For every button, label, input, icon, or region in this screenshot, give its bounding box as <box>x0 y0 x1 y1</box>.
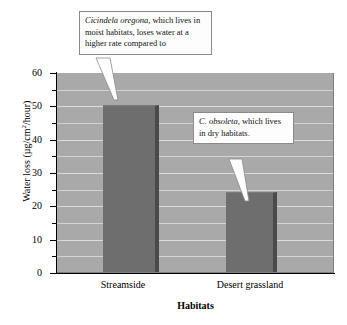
ytick-label-50: 50 <box>32 101 42 111</box>
ytick-55 <box>52 90 56 91</box>
ytick-30 <box>50 173 56 174</box>
ytick-40 <box>50 140 56 141</box>
y-axis-line <box>56 72 57 274</box>
ytick-15 <box>52 223 56 224</box>
bar-streamside[interactable] <box>103 105 159 272</box>
y-axis-title-prefix: Water loss (µg/cm <box>21 129 32 202</box>
y-axis-title-suffix: /hour) <box>21 101 32 125</box>
ytick-10 <box>50 240 56 241</box>
callout-1-species: Cicindela oregona <box>85 15 148 25</box>
gridline-25 <box>57 190 333 191</box>
gridline-20 <box>57 206 333 207</box>
bar-desert-grassland[interactable] <box>226 192 277 272</box>
ytick-label-0: 0 <box>37 268 42 278</box>
ytick-60 <box>50 73 56 74</box>
callout-cicindela-oregona: Cicindela oregona, which lives in moist … <box>79 11 212 55</box>
ytick-35 <box>52 156 56 157</box>
ytick-45 <box>52 123 56 124</box>
ytick-label-60: 60 <box>32 68 42 78</box>
ytick-5 <box>52 256 56 257</box>
callout-c-obsoleta: C. obsoleta, which lives in dry habitats… <box>193 112 294 144</box>
y-axis-title-superscript: 2 <box>20 125 28 129</box>
xtick-label-streamside: Streamside <box>63 279 183 290</box>
bar-chart-figure: 60 50 40 30 20 10 0 Water loss (µg/cm2/h… <box>0 0 347 325</box>
ytick-20 <box>50 206 56 207</box>
callout-2-species: C. obsoleta <box>199 116 238 126</box>
gridline-10 <box>57 240 333 241</box>
y-axis-ticks <box>44 73 56 273</box>
ytick-label-30: 30 <box>32 168 42 178</box>
ytick-label-40: 40 <box>32 135 42 145</box>
plot-area <box>57 73 334 273</box>
ytick-label-10: 10 <box>32 235 42 245</box>
ytick-0 <box>50 273 56 274</box>
gridline-30 <box>57 173 333 174</box>
ytick-50 <box>50 106 56 107</box>
y-axis-title: Water loss (µg/cm2/hour) <box>20 61 32 241</box>
x-axis-title: Habitats <box>57 300 334 311</box>
callout-2-pointer <box>229 159 259 201</box>
gridline-35 <box>57 156 333 157</box>
gridline-50 <box>57 106 333 107</box>
ytick-label-20: 20 <box>32 201 42 211</box>
ytick-25 <box>52 190 56 191</box>
x-axis-line <box>56 273 335 274</box>
xtick-label-desert-grassland: Desert grassland <box>190 279 310 290</box>
gridline-5 <box>57 256 333 257</box>
gridline-15 <box>57 223 333 224</box>
callout-1-pointer <box>96 58 136 100</box>
